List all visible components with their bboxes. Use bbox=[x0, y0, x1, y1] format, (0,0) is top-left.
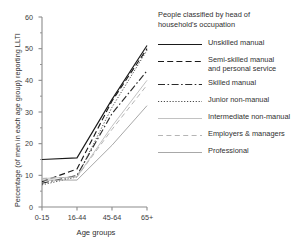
legend-entry-label: Professional bbox=[208, 146, 249, 155]
legend-entry-label: Skilled manual bbox=[208, 78, 256, 87]
legend-entry[interactable]: Intermediate non-manual bbox=[158, 112, 304, 125]
data-series-line bbox=[42, 71, 147, 183]
x-axis-title: Age groups bbox=[44, 228, 148, 237]
x-tick-label: 0-15 bbox=[25, 213, 59, 222]
legend-entry[interactable]: Skilled manual bbox=[158, 78, 304, 91]
y-tick-label: 0 bbox=[17, 203, 33, 212]
data-series-line bbox=[42, 46, 147, 160]
legend-line-swatch bbox=[158, 39, 202, 50]
y-tick-label: 40 bbox=[17, 76, 33, 85]
legend-entry[interactable]: Junior non-manual bbox=[158, 95, 304, 108]
legend-line-swatch bbox=[158, 96, 202, 107]
legend-entry-label: Semi-skilled manual and personal service bbox=[208, 55, 276, 74]
data-series-line bbox=[42, 106, 147, 180]
legend-line-swatch bbox=[158, 130, 202, 141]
legend-entry[interactable]: Employers & managers bbox=[158, 129, 304, 142]
y-tick-label: 50 bbox=[17, 44, 33, 53]
chart-figure: Percentage (of men in each age group) re… bbox=[0, 0, 305, 250]
data-series-group bbox=[42, 46, 147, 185]
legend-entry[interactable]: Professional bbox=[158, 146, 304, 159]
x-tick-label: 45-64 bbox=[95, 213, 129, 222]
y-tick-label: 10 bbox=[17, 171, 33, 180]
legend: People classified by head of household's… bbox=[158, 10, 304, 163]
legend-title: People classified by head of household's… bbox=[158, 10, 286, 30]
y-tick-label: 30 bbox=[17, 108, 33, 117]
data-series-line bbox=[42, 49, 147, 182]
legend-line-swatch bbox=[158, 147, 202, 158]
legend-entry[interactable]: Unskilled manual bbox=[158, 38, 304, 51]
x-tick-label: 16-44 bbox=[60, 213, 94, 222]
legend-entries: Unskilled manualSemi-skilled manual and … bbox=[158, 38, 304, 159]
legend-entry-label: Junior non-manual bbox=[208, 95, 269, 104]
legend-line-swatch bbox=[158, 113, 202, 124]
chart-plot-panel: Percentage (of men in each age group) re… bbox=[0, 0, 152, 250]
legend-entry-label: Intermediate non-manual bbox=[208, 112, 290, 121]
legend-line-swatch bbox=[158, 79, 202, 90]
legend-entry-label: Employers & managers bbox=[208, 129, 285, 138]
y-tick-label: 20 bbox=[17, 139, 33, 148]
x-tick-label: 65+ bbox=[130, 213, 164, 222]
axes bbox=[42, 17, 147, 207]
y-axis-title: Percentage (of men in each age group) re… bbox=[13, 33, 22, 207]
y-tick-label: 60 bbox=[17, 13, 33, 22]
legend-entry[interactable]: Semi-skilled manual and personal service bbox=[158, 55, 304, 74]
legend-line-swatch bbox=[158, 56, 202, 67]
legend-entry-label: Unskilled manual bbox=[208, 38, 264, 47]
data-series-line bbox=[42, 85, 147, 178]
